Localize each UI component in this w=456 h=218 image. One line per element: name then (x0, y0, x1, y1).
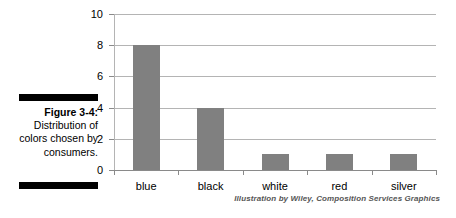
gridline (114, 108, 436, 109)
y-tick-mark (109, 76, 114, 77)
figure-caption-body: Distribution of colors chosen by consume… (19, 119, 98, 159)
x-tick-mark (178, 170, 179, 175)
y-axis-line (114, 14, 115, 170)
bar-white (262, 154, 289, 170)
x-axis-label-silver: silver (391, 180, 417, 192)
y-axis-tick-label: 6 (97, 70, 103, 82)
y-tick-mark (109, 139, 114, 140)
y-tick-mark (109, 45, 114, 46)
y-axis-tick-label: 4 (97, 102, 103, 114)
y-axis-tick-label: 2 (97, 133, 103, 145)
x-tick-mark (114, 170, 115, 175)
gridline (114, 76, 436, 77)
y-axis-tick-label: 0 (97, 164, 103, 176)
x-tick-mark (372, 170, 373, 175)
x-axis-label-white: white (262, 180, 288, 192)
figure-number-label: Figure 3-4: (19, 106, 98, 119)
x-axis-label-blue: blue (136, 180, 157, 192)
y-tick-mark (109, 108, 114, 109)
y-tick-mark (109, 14, 114, 15)
bar-silver (390, 154, 417, 170)
illustration-attribution: Illustration by Wiley, Composition Servi… (234, 194, 440, 203)
y-axis-tick-label: 10 (91, 8, 103, 20)
x-axis-label-red: red (331, 180, 347, 192)
bar-blue (133, 45, 160, 170)
y-axis-tick-label: 8 (97, 39, 103, 51)
caption-rule-bottom (19, 182, 98, 189)
x-tick-mark (243, 170, 244, 175)
gridline (114, 14, 436, 15)
gridline (114, 45, 436, 46)
bar-black (197, 108, 224, 170)
x-tick-mark (307, 170, 308, 175)
x-axis-label-black: black (198, 180, 224, 192)
figure-container: Figure 3-4: Distribution of colors chose… (0, 0, 456, 218)
caption-text: Figure 3-4: Distribution of colors chose… (19, 106, 98, 159)
figure-caption-block: Figure 3-4: Distribution of colors chose… (19, 94, 98, 159)
x-tick-mark (436, 170, 437, 175)
bar-red (326, 154, 353, 170)
chart-plot-area: 0246810 blueblackwhiteredsilver (114, 14, 436, 170)
x-axis-line (114, 170, 436, 171)
gridline (114, 139, 436, 140)
caption-rule-top (19, 94, 98, 101)
